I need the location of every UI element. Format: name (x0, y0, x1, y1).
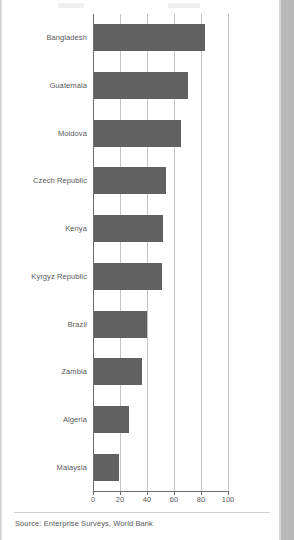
bar-row (93, 62, 228, 110)
bar-algeria[interactable] (93, 406, 129, 433)
bar-row (93, 300, 228, 348)
bar-row (93, 14, 228, 62)
category-label-malaysia: Malaysia (0, 443, 87, 491)
category-label-brazil: Brazil (0, 300, 87, 348)
tick-label-20: 20 (116, 495, 124, 504)
tick-label-80: 80 (197, 495, 205, 504)
bar-row (93, 396, 228, 444)
bar-row (93, 109, 228, 157)
category-label-zambia: Zambia (0, 348, 87, 396)
bar-row (93, 253, 228, 301)
category-label-algeria: Algeria (0, 396, 87, 444)
source-note: Source: Enterprise Surveys, World Bank (15, 519, 153, 528)
footer-divider (14, 512, 270, 513)
bar-czech-republic[interactable] (93, 167, 166, 194)
bar-chart: BangladeshGuatemalaMoldovaCzech Republic… (0, 0, 294, 500)
bar-moldova[interactable] (93, 120, 181, 147)
bar-guatemala[interactable] (93, 72, 188, 99)
category-label-guatemala: Guatemala (0, 62, 87, 110)
category-label-bangladesh: Bangladesh (0, 14, 87, 62)
bars-group (93, 14, 228, 491)
tick-label-60: 60 (170, 495, 178, 504)
y-axis-line (93, 14, 94, 491)
plot-area (93, 14, 228, 491)
category-label-moldova: Moldova (0, 109, 87, 157)
tick-label-0: 0 (91, 495, 95, 504)
gridline-100 (228, 14, 229, 491)
bar-row (93, 348, 228, 396)
bar-row (93, 205, 228, 253)
tick-label-100: 100 (222, 495, 235, 504)
bar-zambia[interactable] (93, 358, 142, 385)
bar-row (93, 443, 228, 491)
category-label-kenya: Kenya (0, 205, 87, 253)
bar-bangladesh[interactable] (93, 24, 205, 51)
bar-kenya[interactable] (93, 215, 163, 242)
chart-page: BangladeshGuatemalaMoldovaCzech Republic… (0, 0, 294, 540)
bar-kyrgyz-republic[interactable] (93, 263, 162, 290)
tick-label-40: 40 (143, 495, 151, 504)
x-axis-tick-labels: 020406080100 (0, 495, 294, 509)
x-axis-line (93, 491, 229, 492)
bar-malaysia[interactable] (93, 454, 119, 481)
category-label-czech-republic: Czech Republic (0, 157, 87, 205)
bar-row (93, 157, 228, 205)
bar-brazil[interactable] (93, 311, 147, 338)
category-label-kyrgyz-republic: Kyrgyz Republic (0, 253, 87, 301)
